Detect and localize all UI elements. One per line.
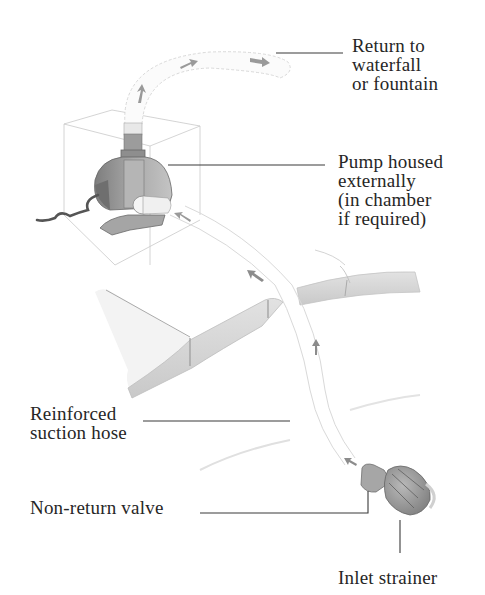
non-return-valve-shape <box>361 464 388 492</box>
label-non-return-valve: Non-return valve <box>30 498 164 517</box>
inlet-assembly <box>361 464 434 515</box>
label-inlet-strainer: Inlet strainer <box>338 568 437 587</box>
pond-edge <box>95 250 420 470</box>
label-pump-housed-externally: Pump housed externally (in chamber if re… <box>338 152 443 228</box>
label-line: waterfall <box>352 55 438 74</box>
label-line: Reinforced <box>30 404 127 423</box>
label-return-to-waterfall: Return to waterfall or fountain <box>352 36 438 93</box>
pump <box>37 123 191 235</box>
label-line: Pump housed <box>338 152 443 171</box>
label-line: if required) <box>338 209 443 228</box>
label-reinforced-suction-hose: Reinforced suction hose <box>30 404 127 442</box>
label-line: Inlet strainer <box>338 568 437 587</box>
label-line: suction hose <box>30 423 127 442</box>
label-line: Non-return valve <box>30 498 164 517</box>
label-line: Return to <box>352 36 438 55</box>
label-line: or fountain <box>352 74 438 93</box>
leader-line-valve <box>200 491 368 513</box>
inlet-strainer-shape <box>384 466 430 515</box>
label-line: (in chamber <box>338 190 443 209</box>
label-line: externally <box>338 171 443 190</box>
return-hose <box>125 52 290 125</box>
